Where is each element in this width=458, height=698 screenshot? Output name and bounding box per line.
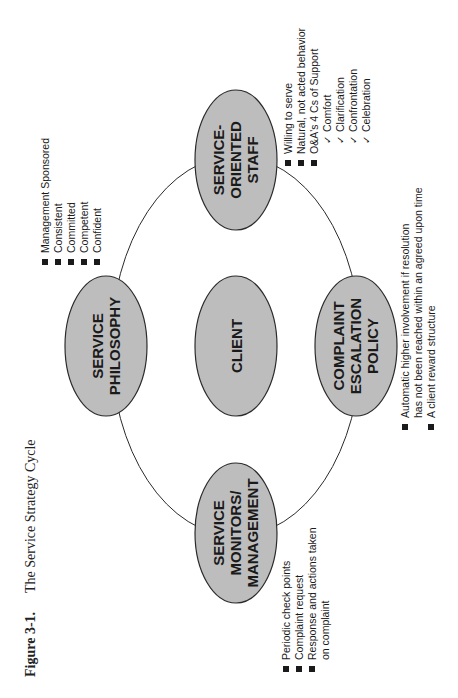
square-bullet-icon: [311, 160, 317, 166]
checkmark-icon: ✓: [361, 136, 372, 144]
bullet-item: Confident: [91, 208, 103, 253]
figure-caption: Figure 3-1. The Service Strategy Cycle: [23, 439, 38, 677]
figure-number: Figure 3-1.: [23, 612, 38, 677]
square-bullet-icon: [296, 666, 302, 672]
checkmark-icon: ✓: [348, 136, 359, 144]
node-label: ORIENTED: [227, 121, 244, 199]
square-bullet-icon: [285, 160, 291, 166]
node-label: COMPLAINT: [330, 301, 347, 390]
sub-bullet-item: Confrontation: [347, 69, 359, 132]
bullets-complaint-escalation-policy: Automatic higher involvement if resoluti…: [399, 187, 437, 430]
bullet-item: Periodic check points: [280, 561, 292, 660]
node-label: ESCALATION: [347, 298, 364, 394]
square-bullet-icon: [283, 666, 289, 672]
checkmark-icon: ✓: [335, 136, 346, 144]
bullet-item: Complaint request: [293, 575, 305, 660]
node-client: CLIENT: [195, 276, 277, 416]
bullets-service-philosophy: Management Sponsored Consistent Committe…: [39, 138, 103, 265]
square-bullet-icon: [42, 259, 48, 265]
node-label: SERVICE: [210, 500, 227, 566]
square-bullet-icon: [428, 424, 434, 430]
bullet-item-continuation: has not been reached within an agreed up…: [412, 187, 424, 418]
figure-title: The Service Strategy Cycle: [23, 439, 38, 593]
bullets-service-oriented-staff: Willing to serve Natural, not acted beha…: [282, 27, 372, 166]
bullet-item: A client reward structure: [425, 305, 437, 418]
bullet-item: Willing to serve: [282, 83, 294, 154]
bullet-item: Management Sponsored: [39, 138, 51, 253]
service-strategy-cycle-figure: SERVICE PHILOSOPHY SERVICE- ORIENTED STA…: [0, 0, 458, 698]
bullet-item: Automatic higher involvement if resoluti…: [399, 223, 411, 418]
square-bullet-icon: [298, 160, 304, 166]
node-label: MANAGEMENT: [244, 478, 261, 587]
bullet-item: Committed: [65, 202, 77, 253]
node-service-philosophy: SERVICE PHILOSOPHY: [65, 276, 147, 416]
node-label: POLICY: [364, 318, 381, 374]
node-label: STAFF: [244, 136, 261, 183]
bullet-item: O&A's 4 Cs of Support: [308, 49, 320, 154]
sub-bullet-item: Comfort: [321, 95, 333, 132]
bullet-item: Consistent: [52, 203, 64, 253]
bullet-item: Competent: [78, 202, 90, 253]
node-service-monitors-management: SERVICE MONITORS/ MANAGEMENT: [195, 463, 277, 603]
bullets-service-monitors-management: Periodic check points Complaint request …: [280, 527, 331, 672]
node-label: MONITORS/: [227, 490, 244, 576]
square-bullet-icon: [81, 259, 87, 265]
node-label: SERVICE-: [210, 125, 227, 196]
square-bullet-icon: [55, 259, 61, 265]
checkmark-icon: ✓: [322, 136, 333, 144]
bullet-item-continuation: on complaint: [319, 600, 331, 660]
square-bullet-icon: [402, 424, 408, 430]
node-complaint-escalation-policy: COMPLAINT ESCALATION POLICY: [315, 276, 397, 416]
sub-bullet-item: Celebration: [360, 78, 372, 132]
square-bullet-icon: [68, 259, 74, 265]
bullet-item: Response and actions taken: [306, 527, 318, 660]
square-bullet-icon: [309, 666, 315, 672]
bullet-item: Natural, not acted behavior: [295, 27, 307, 154]
node-service-oriented-staff: SERVICE- ORIENTED STAFF: [195, 90, 277, 230]
node-label: CLIENT: [228, 319, 245, 373]
square-bullet-icon: [94, 259, 100, 265]
sub-bullet-item: Clarification: [334, 77, 346, 132]
node-label: PHILOSOPHY: [106, 297, 123, 395]
node-label: SERVICE: [89, 313, 106, 379]
